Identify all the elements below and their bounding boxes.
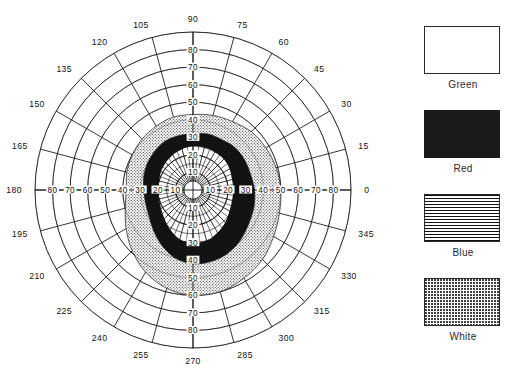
svg-text:40: 40 [188,116,198,125]
svg-text:10: 10 [170,186,180,195]
legend-swatch-blue [424,194,500,242]
svg-text:60: 60 [279,37,289,47]
svg-text:50: 50 [276,186,286,195]
svg-text:70: 70 [65,186,75,195]
svg-text:330: 330 [341,271,357,281]
svg-text:0: 0 [364,185,369,195]
legend-label-green: Green [424,79,502,90]
perimetry-chart-page: 1010101020202020303030304040404050505050… [0,0,518,373]
svg-text:45: 45 [314,64,324,74]
svg-text:20: 20 [188,221,198,230]
legend: Green Red Blue White [408,0,518,373]
svg-text:30: 30 [341,99,351,109]
legend-label-blue: Blue [424,247,502,258]
svg-text:40: 40 [188,256,198,265]
svg-text:70: 70 [311,186,321,195]
svg-text:20: 20 [188,151,198,160]
svg-text:285: 285 [237,350,253,360]
svg-text:30: 30 [241,186,251,195]
legend-item-blue[interactable]: Blue [424,194,502,258]
svg-text:20: 20 [223,186,233,195]
svg-text:40: 40 [258,186,268,195]
svg-text:270: 270 [185,356,201,366]
legend-item-white[interactable]: White [424,278,502,342]
polar-chart: 1010101020202020303030304040404050505050… [0,0,400,373]
svg-text:80: 80 [48,186,58,195]
svg-text:165: 165 [12,141,28,151]
svg-text:120: 120 [92,37,108,47]
svg-text:135: 135 [56,64,72,74]
svg-text:240: 240 [92,333,108,343]
svg-text:75: 75 [237,20,247,30]
svg-text:255: 255 [133,350,149,360]
svg-text:70: 70 [188,309,198,318]
svg-text:70: 70 [188,63,198,72]
svg-text:10: 10 [188,168,198,177]
svg-text:50: 50 [100,186,110,195]
svg-text:80: 80 [188,326,198,335]
svg-text:20: 20 [153,186,163,195]
svg-text:80: 80 [188,46,198,55]
svg-text:315: 315 [314,306,330,316]
svg-text:50: 50 [188,98,198,107]
svg-text:10: 10 [206,186,216,195]
svg-text:60: 60 [188,81,198,90]
svg-text:150: 150 [29,99,45,109]
legend-swatch-white [424,278,500,326]
legend-label-white: White [424,331,502,342]
svg-text:60: 60 [188,291,198,300]
isopter-band-layer [125,114,281,295]
svg-text:30: 30 [188,239,198,248]
svg-text:180: 180 [6,185,22,195]
legend-swatch-green [424,26,500,74]
svg-text:50: 50 [188,274,198,283]
svg-text:90: 90 [188,14,198,24]
legend-item-green[interactable]: Green [424,26,502,90]
svg-text:15: 15 [358,141,368,151]
legend-label-red: Red [424,163,502,174]
legend-swatch-red [424,110,500,158]
legend-item-red[interactable]: Red [424,110,502,174]
svg-text:40: 40 [118,186,128,195]
svg-text:105: 105 [133,20,149,30]
svg-text:60: 60 [83,186,93,195]
svg-text:225: 225 [56,306,72,316]
svg-text:195: 195 [12,229,28,239]
svg-text:30: 30 [188,133,198,142]
svg-text:210: 210 [29,271,45,281]
svg-text:30: 30 [135,186,145,195]
svg-text:10: 10 [188,204,198,213]
svg-text:60: 60 [293,186,303,195]
svg-text:300: 300 [279,333,295,343]
svg-text:345: 345 [358,229,374,239]
svg-text:80: 80 [328,186,338,195]
polar-plot-svg: 1010101020202020303030304040404050505050… [0,0,400,373]
